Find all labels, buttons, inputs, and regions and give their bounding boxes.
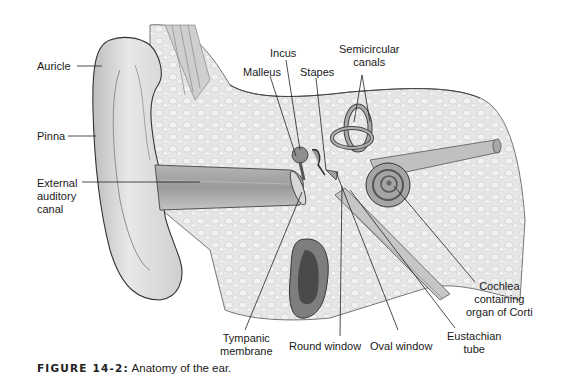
label-pinna: Pinna — [37, 130, 65, 143]
label-tympanic-membrane: Tympanic membrane — [220, 332, 273, 358]
figure-caption-text: Anatomy of the ear. — [132, 362, 232, 374]
figure-caption: FIGURE 14-2: Anatomy of the ear. — [37, 362, 231, 374]
label-semicircular-canals: Semicircular canals — [339, 43, 400, 69]
label-malleus: Malleus — [243, 66, 281, 79]
label-stapes: Stapes — [300, 66, 334, 79]
label-oval-window: Oval window — [370, 340, 432, 353]
figure-number: FIGURE 14-2: — [37, 362, 129, 374]
label-eustachian-tube: Eustachian tube — [447, 330, 501, 356]
label-cochlea: Cochlea containing organ of Corti — [466, 280, 533, 319]
label-incus: Incus — [270, 47, 296, 60]
label-external-auditory-canal: External auditory canal — [37, 177, 77, 216]
ear-anatomy-figure: Auricle Pinna External auditory canal In… — [0, 0, 562, 386]
label-auricle: Auricle — [37, 60, 71, 73]
label-round-window: Round window — [289, 340, 361, 353]
